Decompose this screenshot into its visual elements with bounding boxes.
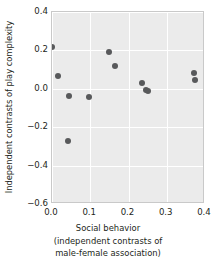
x-tick-label: 0.1 [69,208,109,217]
x-tick-label: 0.4 [184,208,215,217]
x-axis-label: Social behavior(independent contrasts of… [8,222,208,260]
x-tick-label: 0.0 [31,208,71,217]
x-axis-label-line: male-female association) [8,247,208,260]
x-axis-label-line: Social behavior [8,222,208,235]
scatter-plot-figure: Independent contrasts of play complexity… [0,0,215,265]
x-tick-label: 0.2 [108,208,148,217]
x-axis-label-line: (independent contrasts of [8,235,208,248]
x-tick-label: 0.3 [146,208,186,217]
